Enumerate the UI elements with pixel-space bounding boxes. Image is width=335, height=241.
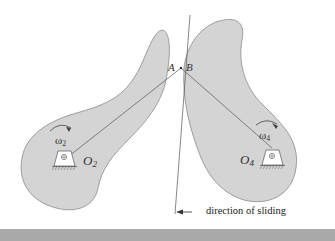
link-2-body — [21, 30, 169, 210]
pivot-label-o2: O2 — [83, 154, 97, 169]
bottom-band — [0, 229, 335, 241]
link-4-body — [184, 19, 297, 201]
contact-label-b: B — [186, 62, 193, 73]
omega2-label: ω2 — [55, 135, 66, 148]
omega4-label: ω4 — [259, 130, 270, 143]
sliding-direction-caption: direction of sliding — [206, 206, 286, 217]
contact-point-dot — [180, 67, 182, 69]
sliding-direction-arrow-icon — [176, 210, 192, 215]
pivot-label-o4: O4 — [240, 153, 254, 168]
mechanism-diagram: A B O2 O4 ω2 ω4 direction of sliding — [0, 0, 335, 241]
contact-label-a: A — [168, 62, 175, 73]
